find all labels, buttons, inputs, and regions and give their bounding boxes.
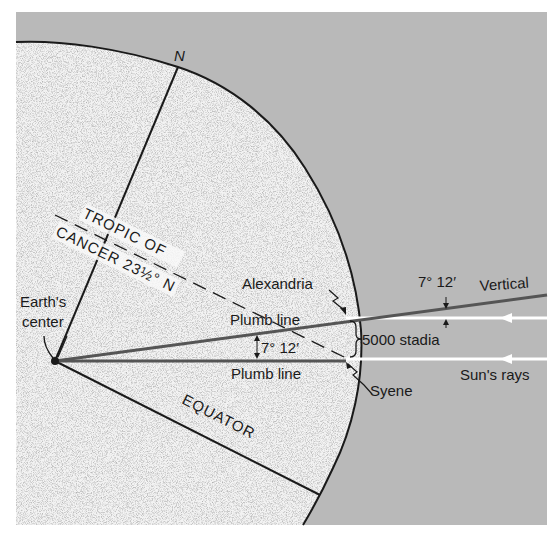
earth-center-label-line1: Earth's (20, 293, 66, 310)
vertical-label: Vertical (479, 274, 529, 294)
earth-center-dot (51, 357, 59, 365)
angle-vertical-label: 7° 12′ (418, 273, 456, 290)
north-label: N (174, 47, 185, 64)
eratosthenes-diagram: TROPIC OF CANCER 23½° N N Earth's center… (0, 0, 559, 538)
sun-rays-label: Sun's rays (460, 366, 530, 383)
distance-label: 5000 stadia (362, 331, 440, 348)
earth-center-label-line2: center (22, 313, 64, 330)
plumb-line-lower-label: Plumb line (231, 365, 301, 382)
syene-label: Syene (370, 382, 413, 399)
plumb-line-upper-label: Plumb line (230, 311, 300, 328)
alexandria-label: Alexandria (242, 275, 314, 292)
angle-center-label: 7° 12′ (261, 339, 299, 356)
